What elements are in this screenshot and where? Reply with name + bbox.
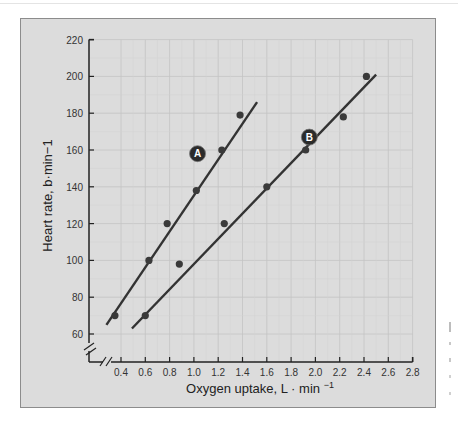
x-tick-label: 0.6 (138, 367, 152, 378)
data-point-a (193, 187, 200, 194)
axis-break-y (86, 348, 96, 355)
data-point-b (363, 73, 370, 80)
axis-break-y (84, 343, 94, 350)
data-point-a (145, 257, 152, 264)
y-tick-label: 120 (66, 219, 83, 230)
x-tick-label: 2.0 (308, 367, 322, 378)
x-tick-label: 1.0 (187, 367, 201, 378)
y-tick-label: 100 (66, 255, 83, 266)
x-tick-label: 1.8 (284, 367, 298, 378)
data-point-b (302, 146, 309, 153)
y-axis-label: Heart rate, b·min−1 (40, 121, 55, 271)
y-tick-label: 60 (72, 329, 84, 340)
series-label-a: A (194, 148, 201, 159)
x-axis-label-text: Oxygen uptake, L · min (186, 381, 320, 396)
y-tick-label: 140 (66, 182, 83, 193)
data-point-a (218, 146, 225, 153)
x-tick-label: 2.8 (406, 367, 420, 378)
data-point-a (111, 312, 118, 319)
series-label-b: B (306, 132, 313, 143)
edge-marks (449, 320, 452, 410)
x-tick-label: 2.6 (381, 367, 395, 378)
data-point-b (142, 312, 149, 319)
x-tick-label: 2.2 (333, 367, 347, 378)
x-tick-label: 1.2 (211, 367, 225, 378)
data-point-a (164, 220, 171, 227)
x-tick-label: 1.4 (236, 367, 250, 378)
x-axis-label: Oxygen uptake, L · min −1 (150, 380, 370, 396)
data-point-b (340, 113, 347, 120)
x-axis-label-exponent: −1 (324, 380, 334, 390)
x-tick-label: 0.4 (114, 367, 128, 378)
x-tick-label: 0.8 (163, 367, 177, 378)
data-point-b (263, 183, 270, 190)
scatter-chart: 0.40.60.81.01.21.41.61.82.02.22.42.62.86… (0, 0, 458, 427)
y-tick-label: 220 (66, 35, 83, 46)
y-tick-label: 180 (66, 108, 83, 119)
data-point-b (221, 220, 228, 227)
data-point-a (236, 111, 243, 118)
y-tick-label: 160 (66, 145, 83, 156)
y-tick-label: 80 (72, 292, 84, 303)
y-tick-label: 200 (66, 71, 83, 82)
x-tick-label: 2.4 (357, 367, 371, 378)
x-tick-label: 1.6 (260, 367, 274, 378)
data-point-b (176, 260, 183, 267)
